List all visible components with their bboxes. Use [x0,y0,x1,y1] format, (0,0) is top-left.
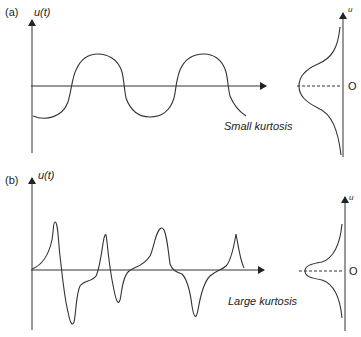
panel-a-y-axis-label: u(t) [34,6,51,18]
panel-b: (b) u(t) Large kurtosis u O [5,169,358,331]
panel-a-pdf-axis-label: u [348,5,353,14]
panel-a: (a) u(t) Small kurtosis u O [5,5,357,157]
panel-b-label: (b) [5,174,18,186]
panel-b-pdf-axis-label: u [349,193,354,202]
panel-a-origin-label: O [348,80,357,92]
kurtosis-diagram: (a) u(t) Small kurtosis u O (b) u(t) Lar… [0,0,361,337]
panel-a-pdf-curve [299,27,341,155]
panel-b-y-axis-label: u(t) [38,169,55,181]
panel-a-label: (a) [5,6,18,18]
panel-a-caption: Small kurtosis [224,120,293,132]
panel-b-caption: Large kurtosis [228,295,298,307]
panel-b-origin-label: O [349,265,358,277]
panel-b-signal-curve [32,222,244,324]
